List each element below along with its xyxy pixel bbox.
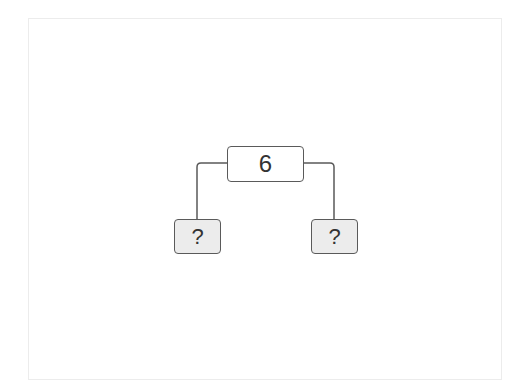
tree-edges	[0, 0, 508, 383]
right-child-node: ?	[311, 219, 358, 254]
edge-right	[304, 163, 334, 219]
right-child-label: ?	[328, 224, 340, 250]
root-node-label: 6	[259, 150, 272, 178]
root-node: 6	[227, 146, 304, 182]
left-child-label: ?	[191, 224, 203, 250]
edge-left	[197, 163, 227, 219]
left-child-node: ?	[174, 219, 221, 254]
